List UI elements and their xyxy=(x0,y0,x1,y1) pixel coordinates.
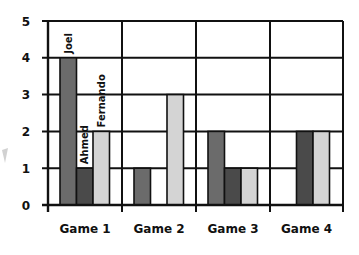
bar-joel-1 xyxy=(60,58,77,205)
x-category-label: Game 4 xyxy=(281,222,332,236)
x-category-label: Game 1 xyxy=(59,222,110,236)
y-tick-label: 1 xyxy=(22,162,30,176)
bar-chart: 012345 Game 1Game 2Game 3Game 4 JoelAhme… xyxy=(0,0,359,255)
bar-ahmed-4 xyxy=(297,131,314,205)
bar-ahmed-1 xyxy=(77,168,94,205)
y-tick-label: 4 xyxy=(22,51,30,65)
y-tick-label: 0 xyxy=(22,199,30,213)
y-tick-label: 5 xyxy=(22,15,30,29)
decorative-mark xyxy=(2,148,8,163)
series-label-joel: Joel xyxy=(63,33,74,55)
x-category-label: Game 3 xyxy=(207,222,258,236)
bar-fernando-3 xyxy=(241,168,258,205)
bar-ahmed-3 xyxy=(225,168,242,205)
bar-joel-2 xyxy=(134,168,151,205)
bar-fernando-2 xyxy=(167,95,184,205)
y-axis-tick-labels: 012345 xyxy=(22,15,30,213)
x-axis-category-labels: Game 1Game 2Game 3Game 4 xyxy=(59,222,332,236)
y-tick-label: 2 xyxy=(22,125,30,139)
bar-fernando-1 xyxy=(93,131,110,205)
series-label-ahmed: Ahmed xyxy=(79,125,90,164)
bar-fernando-4 xyxy=(313,131,330,205)
y-tick-label: 3 xyxy=(22,88,30,102)
series-label-fernando: Fernando xyxy=(96,74,107,127)
chart-canvas: 012345 Game 1Game 2Game 3Game 4 JoelAhme… xyxy=(0,0,359,255)
x-category-label: Game 2 xyxy=(133,222,184,236)
bar-joel-3 xyxy=(208,131,225,205)
